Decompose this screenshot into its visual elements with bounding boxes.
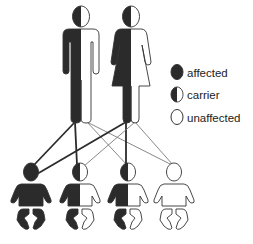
children bbox=[11, 163, 195, 229]
link-father-unaffected-to-child-4 bbox=[87, 122, 172, 165]
link-father-affected-to-child-1 bbox=[33, 122, 75, 166]
child-leg-right bbox=[176, 209, 188, 229]
father-body bbox=[63, 29, 99, 123]
legend-item-affected: affected bbox=[171, 65, 228, 80]
mother-body bbox=[111, 29, 151, 123]
carrier-symbol-shape bbox=[171, 87, 183, 102]
child-figure-1 bbox=[11, 163, 52, 229]
child-head bbox=[24, 163, 39, 181]
link-mother-unaffected-to-child-2 bbox=[84, 122, 135, 166]
child-leg-left bbox=[160, 209, 172, 229]
child-leg-left bbox=[66, 209, 78, 229]
child-figure-2 bbox=[60, 163, 101, 229]
inheritance-diagram: affected carrier unaffected bbox=[0, 0, 253, 244]
legend-item-unaffected: unaffected bbox=[171, 110, 241, 125]
child-leg-right bbox=[82, 209, 94, 229]
father-figure bbox=[63, 6, 99, 123]
child-figure-3 bbox=[108, 163, 149, 229]
child-torso bbox=[11, 184, 52, 206]
parents bbox=[63, 6, 151, 123]
child-leg-right bbox=[33, 209, 45, 229]
legend: affected carrier unaffected bbox=[171, 65, 241, 125]
child-torso bbox=[108, 184, 149, 206]
mother-head bbox=[123, 6, 140, 27]
child-head bbox=[73, 163, 88, 181]
unaffected-symbol-icon bbox=[171, 110, 183, 125]
child-figure-4 bbox=[154, 163, 195, 229]
child-leg-left bbox=[114, 209, 126, 229]
legend-label-carrier: carrier bbox=[187, 89, 220, 101]
child-torso bbox=[154, 184, 195, 206]
carrier-symbol-icon bbox=[171, 87, 183, 102]
child-head bbox=[121, 163, 136, 181]
mother-figure bbox=[111, 6, 151, 123]
link-mother-unaffected-to-child-4 bbox=[135, 122, 173, 165]
child-leg-right bbox=[130, 209, 142, 229]
link-father-affected-to-child-2 bbox=[75, 122, 77, 165]
legend-item-carrier: carrier bbox=[171, 87, 220, 102]
legend-label-affected: affected bbox=[187, 67, 228, 79]
child-torso bbox=[60, 184, 101, 206]
child-head bbox=[167, 163, 182, 181]
child-leg-left bbox=[17, 209, 29, 229]
inheritance-links bbox=[33, 122, 173, 174]
affected-symbol-icon bbox=[171, 65, 183, 80]
father-head bbox=[73, 6, 90, 27]
legend-label-unaffected: unaffected bbox=[187, 112, 241, 124]
